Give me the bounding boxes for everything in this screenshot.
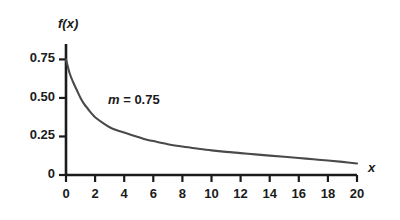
data-curve — [66, 59, 357, 163]
y-axis-label: f(x) — [58, 16, 78, 31]
y-tick-label: 0.25 — [0, 127, 55, 142]
data-curve-group — [66, 59, 357, 163]
chart-figure: f(x) x m = 0.75 0246810121416182000.250.… — [0, 0, 400, 220]
annotation-symbol: m — [108, 92, 120, 107]
x-tick-label: 20 — [337, 186, 377, 201]
y-tick-label: 0 — [0, 166, 55, 181]
x-axis-label: x — [368, 160, 375, 175]
annotation-value: = 0.75 — [120, 92, 160, 107]
axis-lines — [66, 44, 357, 175]
y-tick-label: 0.50 — [0, 89, 55, 104]
curve-annotation: m = 0.75 — [108, 92, 160, 107]
y-tick-label: 0.75 — [0, 50, 55, 65]
